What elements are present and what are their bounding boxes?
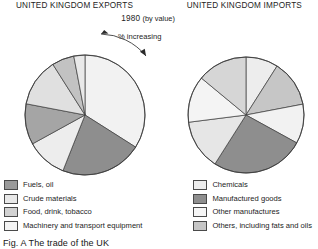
- legend-imports-swatch-3: [193, 221, 207, 231]
- legend-imports-item: Others, including fats and oils: [193, 220, 312, 231]
- legend-imports-label-2: Other manufactures: [212, 207, 279, 217]
- legend-imports-swatch-1: [193, 194, 207, 204]
- figure-caption: Fig. A The trade of the UK: [3, 238, 109, 248]
- legend-exports-label-0: Fuels, oil: [23, 180, 53, 190]
- legend-exports-label-3: Machinery and transport equipment: [23, 221, 142, 231]
- legend: Fuels, oilCrude materialsFood, drink, to…: [0, 180, 318, 231]
- pie-chart-imports: [188, 57, 304, 173]
- legend-exports-item: Food, drink, tobacco: [4, 207, 142, 218]
- pie-chart-exports: [25, 55, 145, 175]
- legend-exports-item: Fuels, oil: [4, 180, 142, 191]
- legend-imports-label-1: Manufactured goods: [212, 194, 281, 204]
- legend-imports-label-3: Others, including fats and oils: [212, 221, 312, 231]
- legend-exports-swatch-1: [4, 194, 18, 204]
- figure-trade-of-the-uk: UNITED KINGDOM EXPORTS UNITED KINGDOM IM…: [0, 0, 318, 249]
- legend-exports-label-1: Crude materials: [23, 194, 77, 204]
- legend-exports-item: Crude materials: [4, 193, 142, 204]
- legend-imports-item: Chemicals: [193, 180, 312, 191]
- legend-exports-swatch-2: [4, 207, 18, 217]
- legend-column-imports: ChemicalsManufactured goodsOther manufac…: [193, 180, 312, 231]
- legend-exports-label-2: Food, drink, tobacco: [23, 207, 92, 217]
- legend-exports-item: Machinery and transport equipment: [4, 220, 142, 231]
- legend-imports-swatch-2: [193, 207, 207, 217]
- legend-exports-swatch-3: [4, 221, 18, 231]
- legend-imports-swatch-0: [193, 180, 207, 190]
- legend-exports-swatch-0: [4, 180, 18, 190]
- legend-imports-label-0: Chemicals: [212, 180, 247, 190]
- legend-imports-item: Manufactured goods: [193, 193, 312, 204]
- annotation-percent-increasing: % increasing: [118, 32, 161, 41]
- legend-imports-item: Other manufactures: [193, 207, 312, 218]
- legend-column-exports: Fuels, oilCrude materialsFood, drink, to…: [4, 180, 142, 231]
